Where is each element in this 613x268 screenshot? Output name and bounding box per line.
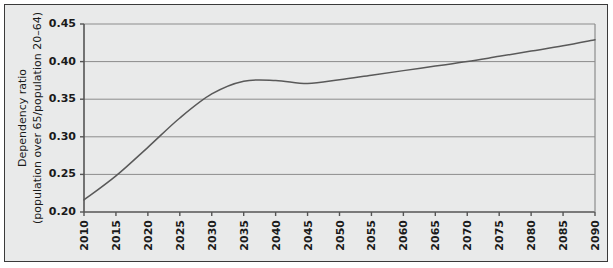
- y-tick-label: 0.30: [49, 130, 76, 143]
- y-tick-labels: 0.200.250.300.350.400.45: [49, 17, 76, 218]
- y-tick-label: 0.25: [49, 167, 76, 180]
- plot-background: [84, 24, 595, 212]
- x-tick-label: 2025: [174, 220, 187, 251]
- y-axis-title: Dependency ratio (population over 65/pop…: [16, 12, 44, 224]
- line-chart-svg: 0.200.250.300.350.400.45 201020152020202…: [0, 0, 613, 268]
- y-tick-label: 0.45: [49, 17, 76, 30]
- x-tick-label: 2030: [206, 220, 219, 251]
- x-tick-label: 2035: [238, 220, 251, 251]
- x-tick-label: 2060: [397, 220, 410, 251]
- x-tick-label: 2065: [429, 220, 442, 251]
- x-tick-labels: 2010201520202025203020352040204520502055…: [78, 220, 602, 251]
- x-tick-label: 2020: [142, 220, 155, 251]
- y-tick-label: 0.40: [49, 55, 76, 68]
- x-tick-label: 2015: [110, 220, 123, 251]
- x-tick-label: 2055: [365, 220, 378, 251]
- y-axis-title-line-2: (population over 65/population 20–64): [31, 12, 44, 224]
- x-tick-label: 2045: [302, 220, 315, 251]
- y-axis-title-line-1: Dependency ratio: [16, 69, 29, 167]
- x-tick-label: 2040: [270, 220, 283, 251]
- x-tick-label: 2075: [493, 220, 506, 251]
- x-tick-label: 2070: [461, 220, 474, 251]
- x-tick-label: 2080: [525, 220, 538, 251]
- x-tick-label: 2085: [557, 220, 570, 251]
- y-tick-label: 0.35: [49, 92, 76, 105]
- y-tick-label: 0.20: [49, 205, 76, 218]
- x-tick-label: 2050: [334, 220, 347, 251]
- chart-figure: 0.200.250.300.350.400.45 201020152020202…: [0, 0, 613, 268]
- x-tick-label: 2010: [78, 220, 91, 251]
- x-tick-label: 2090: [589, 220, 602, 251]
